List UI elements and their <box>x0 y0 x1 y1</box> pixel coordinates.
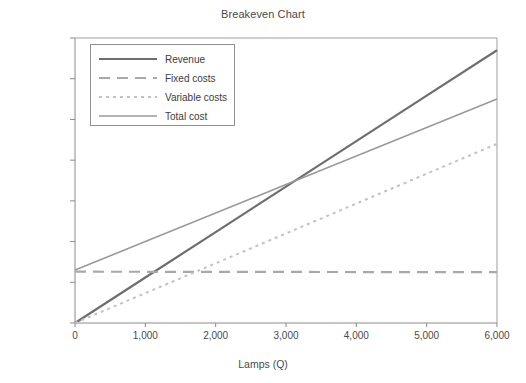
legend-item-total-cost[interactable]: Total cost <box>91 106 236 126</box>
legend-swatch-icon <box>99 110 157 122</box>
legend-label: Variable costs <box>165 92 227 103</box>
legend-item-revenue[interactable]: Revenue <box>91 49 236 69</box>
x-axis-title: Lamps (Q) <box>0 358 526 370</box>
legend-item-fixed-costs[interactable]: Fixed costs <box>91 68 236 88</box>
breakeven-chart: Breakeven Chart $0$100,000$200,000$300,0… <box>0 0 526 383</box>
legend-label: Total cost <box>165 111 207 122</box>
legend-item-variable-costs[interactable]: Variable costs <box>91 87 236 107</box>
series-line-variable-costs <box>75 144 497 323</box>
chart-legend: RevenueFixed costsVariable costsTotal co… <box>90 44 235 126</box>
legend-label: Revenue <box>165 54 205 65</box>
legend-swatch-icon <box>99 72 157 84</box>
plot-area <box>0 0 526 383</box>
legend-swatch-icon <box>99 91 157 103</box>
legend-label: Fixed costs <box>165 73 216 84</box>
legend-swatch-icon <box>99 53 157 65</box>
